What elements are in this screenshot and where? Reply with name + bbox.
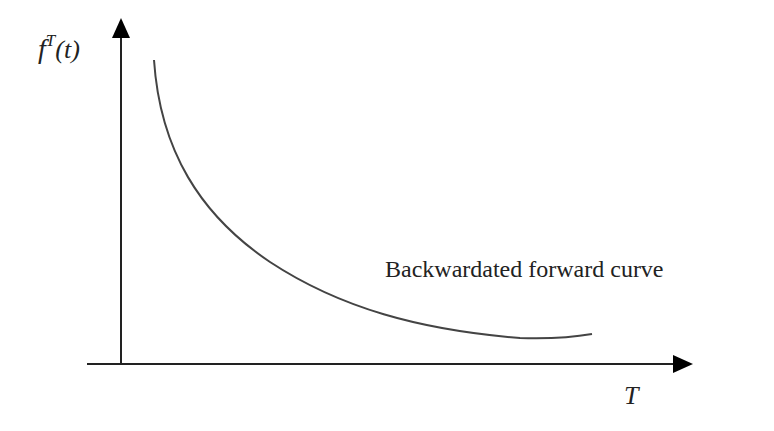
diagram-canvas: fT(t) T Backwardated forward curve (0, 0, 774, 431)
curve-annotation: Backwardated forward curve (385, 256, 664, 282)
x-axis-arrow-icon (673, 355, 693, 373)
x-axis-label: T (624, 381, 640, 410)
y-axis-label: fT(t) (38, 31, 80, 64)
backwardated-forward-curve (154, 60, 592, 338)
y-axis-arrow-icon (112, 18, 130, 38)
